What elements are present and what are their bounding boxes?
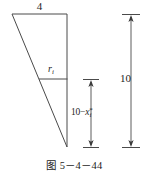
figure-container: 4 ri 10−x*i 10 图 5－4－44: [0, 0, 149, 181]
remaining-height-prefix: 10−: [71, 107, 85, 117]
total-height-label: 10: [120, 73, 131, 84]
figure-drawing: [0, 0, 149, 181]
cone-cross-section-triangle: [12, 14, 67, 147]
remaining-height-variable: x: [85, 108, 89, 118]
radius-subscript: i: [52, 68, 54, 76]
figure-caption: 图 5－4－44: [0, 161, 149, 172]
top-width-label: 4: [0, 1, 79, 12]
radius-label: ri: [48, 64, 54, 76]
remaining-height-label: 10−x*i: [71, 107, 91, 119]
